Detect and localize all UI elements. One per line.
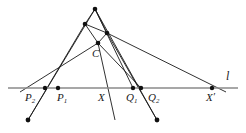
label-p2: P2 xyxy=(25,92,35,105)
label-q1-subscript: 1 xyxy=(134,97,137,104)
label-p1: P1 xyxy=(57,92,67,105)
point-p2 xyxy=(43,86,47,90)
label-p1-base: P xyxy=(57,91,64,103)
point-apex xyxy=(93,7,98,12)
segment-right-node-to-lower-right xyxy=(107,33,157,120)
figure-canvas xyxy=(0,0,246,133)
segment-center-to-p1 xyxy=(20,43,98,92)
point-right-node xyxy=(105,31,110,36)
center-pencil xyxy=(20,43,141,120)
label-q2: Q2 xyxy=(148,92,159,105)
projective-geometry-figure: P2 P1 X Q1 Q2 X′ C l xyxy=(0,0,246,133)
point-q2 xyxy=(139,86,143,90)
label-line-l: l xyxy=(226,70,229,82)
transversal-lines xyxy=(28,24,226,120)
label-x-base: X xyxy=(98,91,105,103)
label-q2-base: Q xyxy=(148,91,156,103)
point-p1 xyxy=(56,86,60,90)
point-lower-right-vertex xyxy=(155,118,160,123)
label-p1-subscript: 1 xyxy=(64,97,67,104)
point-upper-left-node xyxy=(83,22,88,27)
segment-upper-left-node-to-lower-left xyxy=(28,24,85,120)
label-q1: Q1 xyxy=(126,92,137,105)
label-x-prime-base: X xyxy=(206,91,213,103)
label-p2-base: P xyxy=(25,91,32,103)
label-p2-subscript: 2 xyxy=(32,97,35,104)
label-q1-base: Q xyxy=(126,91,134,103)
apex-pencil xyxy=(28,9,157,120)
segment-center-to-q2 xyxy=(98,43,141,88)
segment-apex-to-upper-left-node xyxy=(85,9,95,24)
point-markers xyxy=(26,7,215,123)
label-c: C xyxy=(92,48,99,59)
point-q1 xyxy=(131,86,135,90)
label-q2-subscript: 2 xyxy=(156,97,159,104)
point-lower-left-vertex xyxy=(26,118,31,123)
segment-apex-to-right-node xyxy=(95,9,107,33)
label-x-prime-mark-right: ′ xyxy=(213,91,215,102)
segment-center-to-below-x xyxy=(98,43,115,120)
point-x-prime xyxy=(210,86,214,90)
label-x-prime: X′ xyxy=(206,92,215,103)
point-center-c xyxy=(96,41,101,46)
label-x: X xyxy=(98,92,105,103)
